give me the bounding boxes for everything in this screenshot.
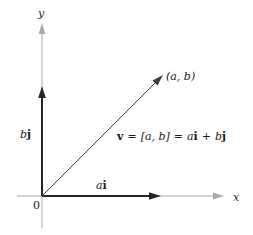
vector-equation-label: v = [a, b] = ai + bj — [117, 131, 226, 142]
point-coordinates-label: (a, b) — [166, 71, 195, 82]
origin-label: 0 — [33, 200, 40, 211]
x-axis-label: x — [233, 192, 239, 203]
y-component-unit-vector: j — [27, 128, 31, 141]
equation-term2-scalar: b — [215, 130, 222, 143]
x-component-unit-vector: i — [103, 179, 107, 192]
y-component-label: bj — [20, 129, 31, 140]
vector-ai-arrowhead-icon — [149, 192, 161, 200]
equation-equals-2: = — [174, 130, 183, 143]
y-axis-label: y — [38, 8, 44, 19]
equation-term2-unit-vector: j — [222, 130, 226, 143]
equation-bracket-form: [a, b] — [141, 130, 170, 143]
equation-plus-sign: + — [202, 130, 211, 143]
x-component-label: ai — [96, 180, 107, 191]
x-axis-arrowhead-icon — [213, 193, 224, 200]
y-component-scalar: b — [20, 128, 27, 141]
vector-diagram-figure: y x 0 bj ai (a, b) v = [a, b] = ai + bj — [0, 0, 253, 235]
y-axis-arrowhead-icon — [39, 23, 46, 34]
vector-bj-arrowhead-icon — [38, 86, 46, 98]
equation-equals-1: = — [127, 130, 136, 143]
